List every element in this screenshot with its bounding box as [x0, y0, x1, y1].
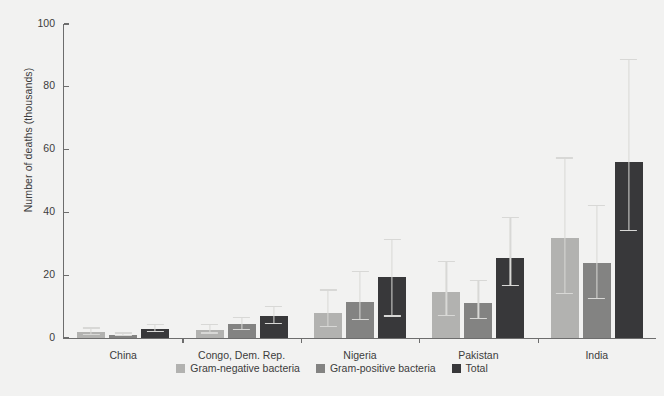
y-axis-label: Number of deaths (thousands)	[22, 0, 38, 300]
error-bar	[123, 332, 124, 336]
x-tick-label: India	[585, 349, 608, 361]
x-tick-mark	[182, 338, 183, 343]
legend-swatch	[176, 364, 185, 373]
error-bar	[155, 324, 156, 332]
error-bar	[241, 317, 242, 330]
error-bar-cap-lower	[83, 334, 100, 335]
y-tick-label: 80	[43, 79, 55, 91]
error-bar-cap-upper	[147, 324, 164, 325]
y-tick-label: 20	[43, 268, 55, 280]
x-tick-label: Pakistan	[458, 349, 498, 361]
error-bar	[596, 205, 597, 299]
error-bar-cap-upper	[470, 280, 487, 281]
error-bar	[327, 289, 328, 326]
chart-legend: Gram-negative bacteriaGram-positive bact…	[0, 362, 664, 374]
legend-item: Gram-negative bacteria	[176, 362, 300, 374]
error-bar	[91, 327, 92, 335]
error-bar	[359, 271, 360, 321]
x-tick-label: China	[109, 349, 136, 361]
error-bar-cap-upper	[265, 306, 282, 307]
error-bar	[510, 217, 511, 286]
error-bar-cap-lower	[438, 315, 455, 316]
error-bar-cap-lower	[233, 329, 250, 330]
plot-area: 020406080100 ChinaCongo, Dem. Rep.Nigeri…	[63, 24, 656, 339]
error-bar-cap-lower	[470, 318, 487, 319]
error-bar-cap-upper	[83, 327, 100, 328]
y-tick-label: 100	[37, 17, 55, 29]
legend-swatch	[452, 364, 461, 373]
error-bar	[478, 280, 479, 319]
error-bar-cap-lower	[383, 315, 400, 316]
error-bar-cap-lower	[351, 319, 368, 320]
error-bar-cap-upper	[233, 317, 250, 318]
error-bar-cap-upper	[351, 271, 368, 272]
y-tick-label: 0	[49, 331, 55, 343]
error-bar-cap-upper	[383, 239, 400, 240]
error-bar	[391, 239, 392, 317]
error-bar-cap-upper	[438, 261, 455, 262]
legend-label: Gram-positive bacteria	[330, 362, 436, 374]
error-bar-cap-upper	[319, 289, 336, 290]
error-bar-cap-upper	[620, 59, 637, 60]
x-tick-label: Congo, Dem. Rep.	[198, 349, 285, 361]
error-bar-cap-lower	[502, 285, 519, 286]
error-bar	[273, 306, 274, 324]
x-tick-mark	[538, 338, 539, 343]
x-tick-mark	[301, 338, 302, 343]
bar-group: Congo, Dem. Rep.	[182, 24, 300, 338]
legend-label: Gram-negative bacteria	[190, 362, 300, 374]
chart-figure: Number of deaths (thousands) 02040608010…	[0, 0, 664, 396]
y-tick-label: 40	[43, 205, 55, 217]
x-tick-label: Nigeria	[343, 349, 376, 361]
error-bar-cap-lower	[556, 293, 573, 294]
error-bar	[446, 261, 447, 316]
error-bar	[209, 324, 210, 333]
error-bar-cap-upper	[556, 157, 573, 158]
bar-group: China	[64, 24, 182, 338]
error-bar-cap-lower	[115, 335, 132, 336]
error-bar-cap-upper	[502, 217, 519, 218]
legend-swatch	[316, 364, 325, 373]
error-bar-cap-lower	[265, 323, 282, 324]
error-bar-cap-lower	[147, 331, 164, 332]
error-bar-cap-lower	[588, 298, 605, 299]
error-bar-cap-lower	[620, 230, 637, 231]
error-bar-cap-upper	[201, 324, 218, 325]
legend-item: Gram-positive bacteria	[316, 362, 436, 374]
bar-group: Nigeria	[301, 24, 419, 338]
error-bar-cap-lower	[319, 326, 336, 327]
error-bar-cap-upper	[115, 332, 132, 333]
x-tick-mark	[419, 338, 420, 343]
y-tick-label: 60	[43, 142, 55, 154]
legend-label: Total	[466, 362, 488, 374]
error-bar-cap-upper	[588, 205, 605, 206]
bar-group: Pakistan	[419, 24, 537, 338]
legend-item: Total	[452, 362, 488, 374]
error-bar	[564, 157, 565, 294]
bar-group: India	[538, 24, 656, 338]
error-bar-cap-lower	[201, 332, 218, 333]
error-bar	[628, 59, 629, 232]
